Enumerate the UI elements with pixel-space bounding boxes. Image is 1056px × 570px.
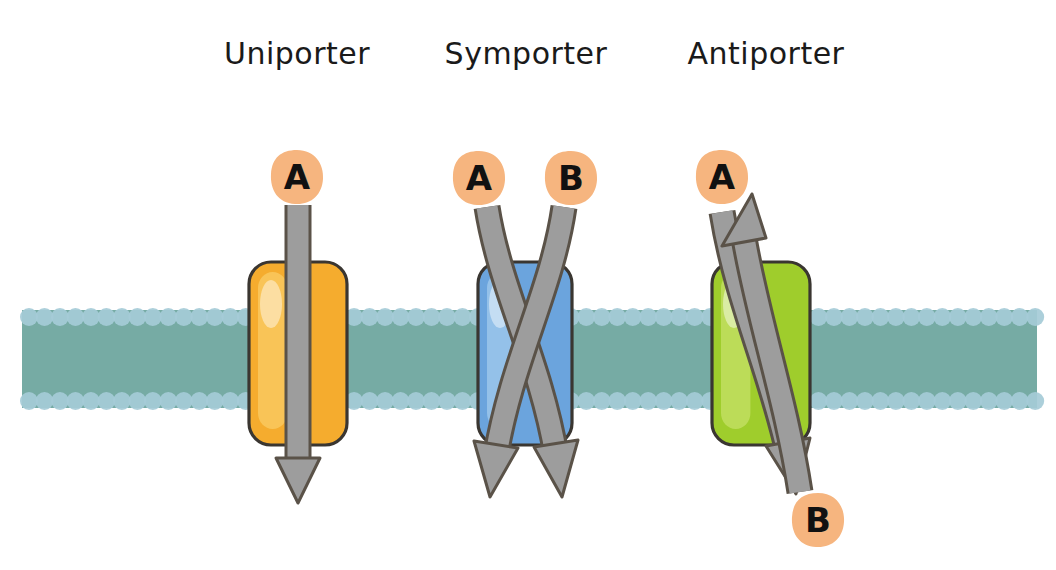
lipid-head xyxy=(995,392,1013,410)
lipid-head xyxy=(190,392,208,410)
lipid-head xyxy=(438,392,456,410)
uniporter-label-a[interactable]: A xyxy=(271,150,323,204)
lipid-head xyxy=(97,308,115,326)
lipid-head xyxy=(918,392,936,410)
lipid-head xyxy=(933,392,951,410)
arrow-head xyxy=(276,458,320,503)
lipid-head xyxy=(686,392,704,410)
lipid-head xyxy=(918,308,936,326)
lipid-head xyxy=(35,392,53,410)
membrane-transport-svg: AABAB xyxy=(0,0,1056,570)
label-text: A xyxy=(466,158,493,198)
lipid-head xyxy=(593,308,611,326)
lipid-head xyxy=(686,308,704,326)
lipid-head xyxy=(159,392,177,410)
lipid-head xyxy=(670,392,688,410)
lipid-head xyxy=(206,392,224,410)
antiporter-label-b[interactable]: B xyxy=(792,493,844,547)
lipid-head xyxy=(949,392,967,410)
uniporter-protein-gloss xyxy=(260,280,282,328)
lipid-head xyxy=(887,392,905,410)
lipid-head xyxy=(655,308,673,326)
lipid-head xyxy=(1026,392,1044,410)
label-text: B xyxy=(558,158,584,198)
lipid-head xyxy=(995,308,1013,326)
lipid-head xyxy=(964,308,982,326)
arrow-head xyxy=(474,441,518,497)
symporter-label-a[interactable]: A xyxy=(453,151,505,205)
lipid-head xyxy=(113,392,131,410)
lipid-head xyxy=(902,308,920,326)
lipid-head xyxy=(422,392,440,410)
lipid-head xyxy=(453,308,471,326)
lipid-head xyxy=(66,392,84,410)
label-text: A xyxy=(709,157,736,197)
lipid-head xyxy=(655,392,673,410)
lipid-head xyxy=(206,308,224,326)
antiporter-label-a[interactable]: A xyxy=(696,150,748,204)
arrow-head xyxy=(534,440,578,497)
lipid-head xyxy=(97,392,115,410)
lipid-head xyxy=(608,308,626,326)
lipid-head xyxy=(809,392,827,410)
lipid-head xyxy=(980,308,998,326)
lipid-head xyxy=(639,308,657,326)
lipid-head xyxy=(624,392,642,410)
lipid-head xyxy=(453,392,471,410)
label-text: A xyxy=(284,157,311,197)
lipid-head xyxy=(175,392,193,410)
lipid-head xyxy=(825,308,843,326)
lipid-head xyxy=(577,392,595,410)
lipid-head xyxy=(66,308,84,326)
lipid-head xyxy=(144,308,162,326)
lipid-head xyxy=(670,308,688,326)
lipid-head xyxy=(128,392,146,410)
lipid-head xyxy=(1011,392,1029,410)
lipid-head xyxy=(159,308,177,326)
lipid-head xyxy=(376,308,394,326)
panel-uniporter: A xyxy=(249,150,347,503)
lipid-head xyxy=(639,392,657,410)
lipid-head xyxy=(809,308,827,326)
lipid-head xyxy=(871,308,889,326)
lipid-head xyxy=(221,308,239,326)
lipid-head xyxy=(361,308,379,326)
lipid-head xyxy=(902,392,920,410)
lipid-head xyxy=(949,308,967,326)
lipid-head xyxy=(20,308,38,326)
lipid-head xyxy=(190,308,208,326)
lipid-head xyxy=(840,308,858,326)
lipid-head xyxy=(144,392,162,410)
lipid-head xyxy=(35,308,53,326)
lipid-head xyxy=(82,392,100,410)
lipid-head xyxy=(438,308,456,326)
lipid-head xyxy=(593,392,611,410)
lipid-head xyxy=(376,392,394,410)
lipid-head xyxy=(964,392,982,410)
lipid-head xyxy=(980,392,998,410)
lipid-head xyxy=(407,392,425,410)
lipid-head xyxy=(175,308,193,326)
lipid-head xyxy=(933,308,951,326)
lipid-head xyxy=(82,308,100,326)
lipid-head xyxy=(856,308,874,326)
lipid-head xyxy=(221,392,239,410)
lipid-head xyxy=(608,392,626,410)
lipid-head xyxy=(20,392,38,410)
lipid-head xyxy=(840,392,858,410)
lipid-head xyxy=(361,392,379,410)
lipid-head xyxy=(407,308,425,326)
diagram-canvas: Uniporter Symporter Antiporter AABAB xyxy=(0,0,1056,570)
lipid-head xyxy=(1011,308,1029,326)
lipid-head xyxy=(856,392,874,410)
lipid-head xyxy=(128,308,146,326)
lipid-head xyxy=(113,308,131,326)
label-text: B xyxy=(805,500,831,540)
lipid-head xyxy=(51,392,69,410)
lipid-head xyxy=(392,308,410,326)
lipid-head xyxy=(51,308,69,326)
lipid-head xyxy=(871,392,889,410)
symporter-label-b[interactable]: B xyxy=(545,151,597,205)
lipid-head xyxy=(1026,308,1044,326)
lipid-head xyxy=(392,392,410,410)
